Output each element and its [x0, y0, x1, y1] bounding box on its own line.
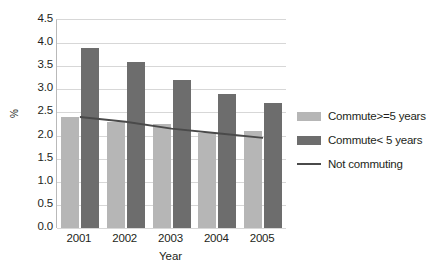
gridline	[57, 228, 286, 229]
legend-swatch-light-icon	[297, 112, 321, 121]
line-path	[80, 117, 263, 138]
x-axis-tick-label: 2003	[148, 232, 194, 244]
y-axis-tick-label: 3.0	[23, 82, 53, 93]
line-series	[57, 20, 286, 228]
y-axis-tick-label: 1.5	[23, 152, 53, 163]
x-axis-title: Year	[56, 250, 285, 262]
y-axis-tick-label: 4.0	[23, 36, 53, 47]
legend-item: Commute< 5 years	[297, 128, 435, 152]
x-axis-tick-label: 2002	[102, 232, 148, 244]
legend-label: Commute>=5 years	[328, 110, 426, 122]
y-axis-tick-label: 2.5	[23, 105, 53, 116]
legend-label: Commute< 5 years	[328, 134, 422, 146]
legend-swatch-line-icon	[297, 163, 321, 165]
plot-area	[56, 19, 286, 228]
y-axis-tick-label: 1.0	[23, 175, 53, 186]
y-axis-tick-label: 4.5	[23, 13, 53, 24]
y-axis-tick-label: 0.5	[23, 198, 53, 209]
legend-label: Not commuting	[328, 158, 403, 170]
y-axis-tick-label: 0.0	[23, 221, 53, 232]
legend-item: Not commuting	[297, 152, 435, 176]
y-axis-tick-label: 2.0	[23, 129, 53, 140]
y-axis-title: %	[9, 104, 20, 124]
x-axis-tick-label: 2001	[56, 232, 102, 244]
y-axis-tick-label: 3.5	[23, 59, 53, 70]
legend-swatch-dark-icon	[297, 136, 321, 145]
bar-line-chart: % 4.54.03.53.02.52.01.51.00.50.0 2001200…	[0, 0, 438, 268]
legend-item: Commute>=5 years	[297, 104, 435, 128]
y-axis-tick-labels: 4.54.03.53.02.52.01.51.00.50.0	[20, 0, 53, 268]
x-axis-tick-label: 2004	[193, 232, 239, 244]
x-axis-tick-label: 2005	[239, 232, 285, 244]
chart-legend: Commute>=5 yearsCommute< 5 yearsNot comm…	[297, 104, 435, 176]
